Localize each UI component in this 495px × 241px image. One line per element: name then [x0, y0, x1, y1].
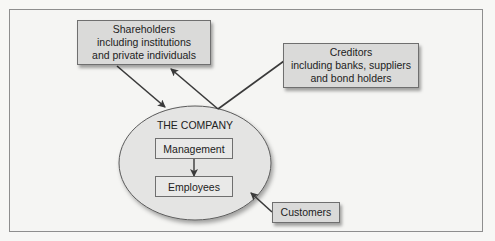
creditors-title: Creditors	[284, 46, 418, 59]
shareholders-box: Shareholders including institutions and …	[77, 20, 211, 65]
shareholders-line-2: including institutions	[78, 36, 210, 49]
shareholders-line-3: and private individuals	[78, 49, 210, 62]
link-company-creditors	[218, 61, 284, 109]
shareholders-title: Shareholders	[78, 23, 210, 36]
company-label: THE COMPANY	[135, 119, 255, 131]
creditors-box: Creditors including banks, suppliers and…	[283, 43, 419, 88]
creditors-line-3: and bond holders	[284, 72, 418, 85]
management-box: Management	[155, 138, 233, 159]
customers-box: Customers	[272, 202, 340, 223]
arrow-shareholders-to-company	[117, 66, 165, 107]
employees-box: Employees	[155, 176, 233, 197]
arrow-company-to-shareholders	[171, 69, 218, 109]
customers-label: Customers	[273, 206, 339, 219]
creditors-line-2: including banks, suppliers	[284, 59, 418, 72]
arrow-customers-to-company	[251, 193, 272, 212]
